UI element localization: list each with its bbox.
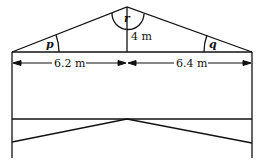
- house-diagram: p q r 4 m 6.2 m 6.4 m: [0, 0, 261, 167]
- angle-arc-q: [204, 35, 207, 52]
- left-span-label: 6.2 m: [54, 57, 86, 70]
- lower-v-lines: [12, 119, 252, 143]
- angle-label-p: p: [46, 38, 54, 51]
- height-label: 4 m: [131, 30, 152, 43]
- arrow-mid-right-icon: [128, 61, 136, 66]
- arrow-left-icon: [13, 61, 21, 66]
- angle-label-q: q: [209, 38, 217, 51]
- angle-label-r: r: [124, 12, 131, 25]
- angle-arc-p: [56, 35, 59, 52]
- arrow-mid-left-icon: [118, 61, 126, 66]
- arrow-right-icon: [243, 61, 251, 66]
- right-span-label: 6.4 m: [176, 57, 208, 70]
